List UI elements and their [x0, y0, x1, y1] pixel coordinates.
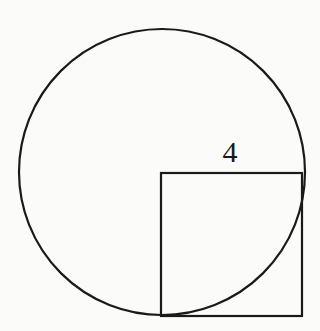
geometry-diagram: 4 [0, 0, 320, 331]
side-length-label: 4 [223, 135, 238, 168]
square [161, 173, 302, 316]
